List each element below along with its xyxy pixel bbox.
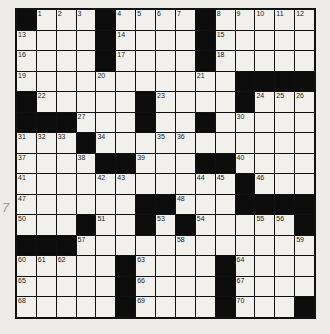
- grid-cell[interactable]: [116, 195, 135, 215]
- grid-cell[interactable]: 57: [77, 236, 96, 256]
- grid-cell[interactable]: 40: [236, 154, 255, 174]
- grid-cell[interactable]: [275, 51, 294, 71]
- grid-cell[interactable]: [216, 195, 235, 215]
- grid-cell[interactable]: 48: [176, 195, 195, 215]
- grid-cell[interactable]: [176, 174, 195, 194]
- grid-cell[interactable]: [77, 31, 96, 51]
- grid-cell[interactable]: 54: [196, 215, 215, 235]
- grid-cell[interactable]: [96, 297, 115, 317]
- grid-cell[interactable]: [57, 215, 76, 235]
- grid-cell[interactable]: [255, 256, 274, 276]
- grid-cell[interactable]: [156, 72, 175, 92]
- grid-cell[interactable]: [37, 174, 56, 194]
- grid-cell[interactable]: 5: [136, 10, 155, 30]
- grid-cell[interactable]: [77, 174, 96, 194]
- grid-cell[interactable]: 55: [255, 215, 274, 235]
- grid-cell[interactable]: 4: [116, 10, 135, 30]
- grid-cell[interactable]: [176, 72, 195, 92]
- grid-cell[interactable]: [136, 174, 155, 194]
- grid-cell[interactable]: 46: [255, 174, 274, 194]
- grid-cell[interactable]: [136, 72, 155, 92]
- grid-cell[interactable]: [275, 31, 294, 51]
- grid-cell[interactable]: 31: [17, 133, 36, 153]
- grid-cell[interactable]: [295, 31, 314, 51]
- grid-cell[interactable]: 12: [295, 10, 314, 30]
- grid-cell[interactable]: [116, 236, 135, 256]
- grid-cell[interactable]: [37, 277, 56, 297]
- grid-cell[interactable]: 11: [275, 10, 294, 30]
- grid-cell[interactable]: 63: [136, 256, 155, 276]
- grid-cell[interactable]: [196, 195, 215, 215]
- grid-cell[interactable]: [57, 154, 76, 174]
- grid-cell[interactable]: [275, 236, 294, 256]
- grid-cell[interactable]: [37, 215, 56, 235]
- grid-cell[interactable]: 38: [77, 154, 96, 174]
- grid-cell[interactable]: [156, 236, 175, 256]
- grid-cell[interactable]: [295, 51, 314, 71]
- grid-cell[interactable]: [216, 215, 235, 235]
- grid-cell[interactable]: [255, 31, 274, 51]
- grid-cell[interactable]: 65: [17, 277, 36, 297]
- grid-cell[interactable]: [37, 195, 56, 215]
- grid-cell[interactable]: [156, 256, 175, 276]
- grid-cell[interactable]: [156, 31, 175, 51]
- grid-cell[interactable]: [57, 51, 76, 71]
- grid-cell[interactable]: [136, 133, 155, 153]
- grid-cell[interactable]: [176, 92, 195, 112]
- grid-cell[interactable]: 69: [136, 297, 155, 317]
- grid-cell[interactable]: [96, 277, 115, 297]
- grid-cell[interactable]: 43: [116, 174, 135, 194]
- grid-cell[interactable]: [96, 113, 115, 133]
- grid-cell[interactable]: 17: [116, 51, 135, 71]
- grid-cell[interactable]: [116, 92, 135, 112]
- grid-cell[interactable]: 51: [96, 215, 115, 235]
- grid-cell[interactable]: 32: [37, 133, 56, 153]
- grid-cell[interactable]: [116, 113, 135, 133]
- grid-cell[interactable]: 34: [96, 133, 115, 153]
- grid-cell[interactable]: 58: [176, 236, 195, 256]
- grid-cell[interactable]: [176, 277, 195, 297]
- grid-cell[interactable]: 61: [37, 256, 56, 276]
- grid-cell[interactable]: [156, 297, 175, 317]
- grid-cell[interactable]: 24: [255, 92, 274, 112]
- grid-cell[interactable]: 27: [77, 113, 96, 133]
- grid-cell[interactable]: [37, 51, 56, 71]
- grid-cell[interactable]: [275, 133, 294, 153]
- grid-cell[interactable]: [57, 92, 76, 112]
- grid-cell[interactable]: 62: [57, 256, 76, 276]
- grid-cell[interactable]: [57, 72, 76, 92]
- grid-cell[interactable]: 16: [17, 51, 36, 71]
- grid-cell[interactable]: 35: [156, 133, 175, 153]
- grid-cell[interactable]: [96, 92, 115, 112]
- grid-cell[interactable]: 7: [176, 10, 195, 30]
- grid-cell[interactable]: 53: [156, 215, 175, 235]
- grid-cell[interactable]: [176, 113, 195, 133]
- grid-cell[interactable]: [196, 92, 215, 112]
- grid-cell[interactable]: [77, 277, 96, 297]
- grid-cell[interactable]: [236, 236, 255, 256]
- grid-cell[interactable]: [77, 195, 96, 215]
- grid-cell[interactable]: 6: [156, 10, 175, 30]
- grid-cell[interactable]: [275, 277, 294, 297]
- grid-cell[interactable]: [275, 174, 294, 194]
- grid-cell[interactable]: [156, 174, 175, 194]
- grid-cell[interactable]: [116, 72, 135, 92]
- grid-cell[interactable]: [275, 297, 294, 317]
- grid-cell[interactable]: 18: [216, 51, 235, 71]
- grid-cell[interactable]: [136, 236, 155, 256]
- grid-cell[interactable]: [37, 154, 56, 174]
- grid-cell[interactable]: [236, 133, 255, 153]
- grid-cell[interactable]: [196, 297, 215, 317]
- grid-cell[interactable]: 47: [17, 195, 36, 215]
- grid-cell[interactable]: [96, 236, 115, 256]
- grid-cell[interactable]: 8: [216, 10, 235, 30]
- grid-cell[interactable]: 45: [216, 174, 235, 194]
- grid-cell[interactable]: [295, 113, 314, 133]
- grid-cell[interactable]: 15: [216, 31, 235, 51]
- grid-cell[interactable]: [176, 297, 195, 317]
- grid-cell[interactable]: 20: [96, 72, 115, 92]
- grid-cell[interactable]: 67: [236, 277, 255, 297]
- grid-cell[interactable]: [77, 256, 96, 276]
- grid-cell[interactable]: [275, 113, 294, 133]
- grid-cell[interactable]: 64: [236, 256, 255, 276]
